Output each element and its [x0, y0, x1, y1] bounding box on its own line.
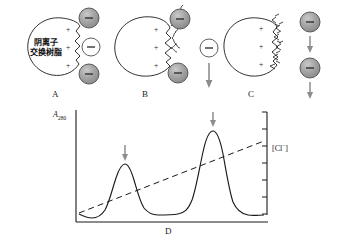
panel-a-ions: [79, 8, 100, 84]
chloride-label-open: [Cl: [272, 144, 282, 153]
peak-2-arrow: [210, 112, 216, 127]
absorbance-elution-curve: [79, 131, 264, 218]
plus-charge-icon: +: [154, 61, 158, 70]
panel-letter-a: A: [52, 89, 59, 99]
panel-letter-d: D: [165, 226, 172, 236]
chart-right-axis-ticks: [262, 112, 267, 214]
resin-bead-c: [224, 18, 278, 76]
panel-letter-c: C: [248, 89, 254, 99]
resin-label-line2: 交换树脂: [24, 48, 68, 58]
plus-charge-icon: +: [154, 25, 158, 34]
chloride-gradient-line: [79, 141, 264, 213]
resin-charges-b: + + +: [154, 25, 158, 70]
bound-protein-chain-b2: [172, 28, 180, 48]
panel-b-ions: [168, 9, 218, 88]
resin-label: 阴离子 交换树脂: [24, 38, 68, 58]
plus-charge-icon: +: [259, 42, 263, 51]
down-arrow-head-icon: [307, 46, 313, 53]
panel-letter-b: B: [142, 89, 148, 99]
resin-charges-c: + + +: [259, 24, 263, 69]
panel-c-ions: [300, 12, 320, 99]
y-axis-subscript: 280: [58, 115, 66, 121]
plus-charge-icon: +: [66, 25, 70, 34]
plus-charge-icon: +: [154, 43, 158, 52]
chart-panel-d: [76, 110, 268, 222]
figure-anion-exchange-chromatography: + + + + + +: [0, 0, 343, 246]
bound-protein-chain-b3: [171, 44, 177, 52]
plus-charge-icon: +: [66, 61, 70, 70]
panel-c: [224, 14, 283, 76]
peak-1-arrow: [122, 145, 128, 161]
plus-charge-icon: +: [259, 60, 263, 69]
down-arrow-head-icon: [307, 92, 313, 99]
chart-y-axis-label: A280: [53, 110, 66, 121]
chloride-label-close: ]: [285, 144, 288, 153]
plus-charge-icon: +: [259, 24, 263, 33]
resin-label-line1: 阴离子: [24, 38, 68, 48]
resin-bead-b: [115, 17, 171, 76]
chloride-axis-label: [Cl−]: [272, 142, 288, 153]
down-arrow-head-icon: [206, 80, 213, 88]
figure-canvas: + + + + + +: [0, 0, 343, 246]
